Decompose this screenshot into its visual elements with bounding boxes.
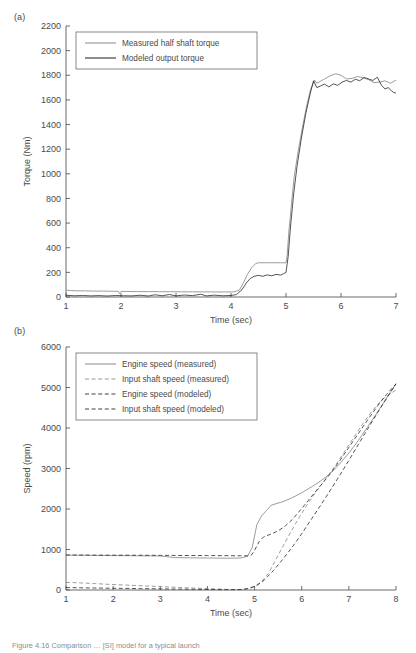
y-tick-label: 800 <box>46 194 61 204</box>
y-axis-title: Speed (rpm) <box>22 443 32 493</box>
figure-container: (a) 020040060080010001200140016001800200… <box>0 0 416 653</box>
x-tick-label: 6 <box>299 594 304 604</box>
legend-label: Measured half shaft torque <box>122 39 220 48</box>
y-tick-label: 4000 <box>41 423 61 433</box>
figure-caption: Figure 4.16 Comparison … [SI] model for … <box>12 641 412 650</box>
panel-a-label: (a) <box>14 12 25 22</box>
y-tick-label: 1600 <box>41 95 61 105</box>
legend-label: Engine speed (modeled) <box>122 390 211 399</box>
y-tick-label: 1400 <box>41 120 61 130</box>
speed-chart-svg: 010002000300040005000600012345678Time (s… <box>0 320 416 630</box>
chart-panel-b: (b) 010002000300040005000600012345678Tim… <box>0 320 416 630</box>
chart-panel-a: (a) 020040060080010001200140016001800200… <box>0 0 416 330</box>
x-tick-label: 5 <box>252 594 257 604</box>
y-tick-label: 2000 <box>41 46 61 56</box>
y-tick-label: 200 <box>46 268 61 278</box>
x-tick-label: 2 <box>118 301 123 311</box>
legend-label: Modeled output torque <box>122 54 204 63</box>
y-tick-label: 1000 <box>41 169 61 179</box>
panel-b-label: (b) <box>14 326 25 336</box>
x-tick-label: 2 <box>111 594 116 604</box>
data-series-line <box>66 74 396 294</box>
legend-label: Engine speed (measured) <box>122 360 216 369</box>
legend-label: Input shaft speed (measured) <box>122 375 229 384</box>
y-tick-label: 1000 <box>41 545 61 555</box>
torque-chart-svg: 0200400600800100012001400160018002000220… <box>0 0 416 330</box>
x-tick-label: 6 <box>338 301 343 311</box>
y-tick-label: 5000 <box>41 383 61 393</box>
x-tick-label: 4 <box>228 301 233 311</box>
y-tick-label: 400 <box>46 243 61 253</box>
y-tick-label: 0 <box>56 292 61 302</box>
y-tick-label: 6000 <box>41 342 61 352</box>
legend-label: Input shaft speed (modeled) <box>122 405 224 414</box>
x-tick-label: 7 <box>346 594 351 604</box>
chart-legend: Engine speed (measured)Input shaft speed… <box>76 353 257 420</box>
y-tick-label: 1800 <box>41 70 61 80</box>
y-tick-label: 2000 <box>41 504 61 514</box>
y-tick-label: 0 <box>56 585 61 595</box>
y-tick-label: 3000 <box>41 464 61 474</box>
y-tick-label: 1200 <box>41 144 61 154</box>
x-tick-label: 7 <box>393 301 398 311</box>
y-tick-label: 600 <box>46 218 61 228</box>
x-tick-label: 8 <box>393 594 398 604</box>
x-tick-label: 5 <box>283 301 288 311</box>
chart-legend: Measured half shaft torqueModeled output… <box>76 32 257 69</box>
data-series-line <box>66 77 396 296</box>
x-tick-label: 3 <box>173 301 178 311</box>
x-tick-label: 1 <box>63 594 68 604</box>
y-tick-label: 2200 <box>41 21 61 31</box>
x-axis-title: Time (sec) <box>210 608 252 618</box>
y-axis-title: Torque (Nm) <box>22 136 32 186</box>
x-tick-label: 4 <box>205 594 210 604</box>
x-tick-label: 3 <box>158 594 163 604</box>
x-tick-label: 1 <box>63 301 68 311</box>
